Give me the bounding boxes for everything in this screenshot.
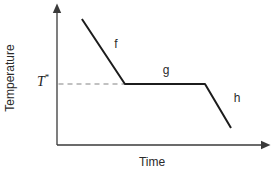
y-axis-arrow-icon	[53, 4, 61, 14]
cooling-curve-line	[82, 19, 231, 128]
segment-label: f	[114, 37, 118, 51]
x-axis-title: Time	[139, 155, 166, 169]
y-axis-title: Temperature	[3, 44, 17, 112]
segment-label: g	[163, 63, 170, 77]
cooling-curve-figure: f g h T* Temperature Time	[0, 0, 280, 178]
cooling-curve-svg: f g h T* Temperature Time	[0, 0, 280, 178]
reference-label: T*	[37, 72, 50, 89]
segment-label: h	[234, 91, 241, 105]
reference-label-superscript: *	[45, 72, 50, 82]
x-axis-arrow-icon	[261, 141, 271, 149]
